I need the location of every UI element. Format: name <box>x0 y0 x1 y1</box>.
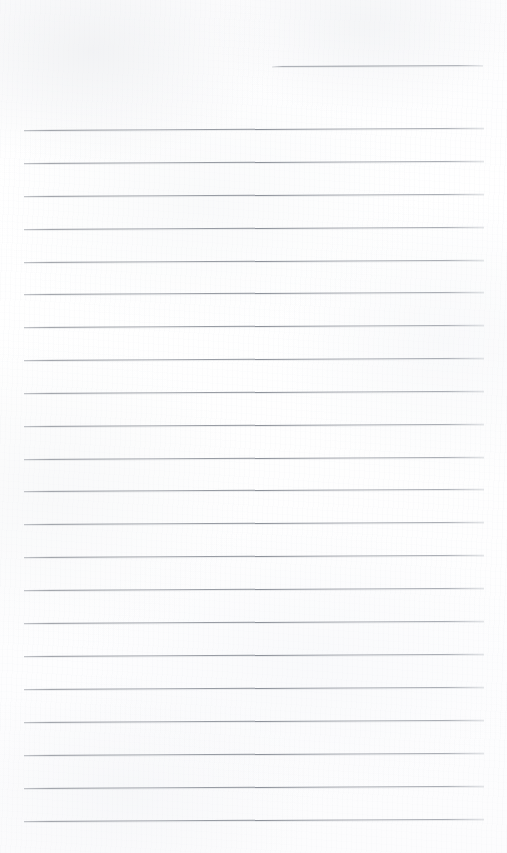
notebook-page <box>0 0 507 853</box>
writing-area[interactable] <box>24 50 484 840</box>
